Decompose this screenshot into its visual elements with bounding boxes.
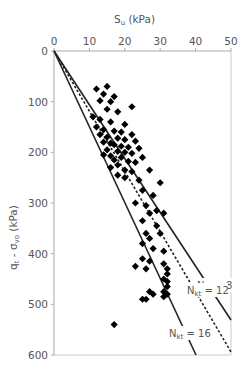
y-tick-label: 300 [28, 197, 48, 209]
x-tick-label: 40 [189, 35, 202, 47]
tick-marks [51, 48, 231, 355]
data-point-diamond [153, 222, 160, 229]
data-point-diamond [121, 121, 128, 128]
data-point-diamond [107, 118, 114, 125]
nkt-12-line [54, 51, 231, 352]
data-point-diamond [96, 97, 103, 104]
reference-lines [54, 51, 231, 355]
data-point-diamond [160, 248, 167, 255]
data-point-diamond [132, 138, 139, 145]
plot-area [51, 48, 231, 355]
data-points [89, 83, 171, 328]
x-tick-label: 50 [224, 35, 237, 47]
data-point-diamond [150, 245, 157, 252]
data-point-diamond [128, 131, 135, 138]
scatter-chart: Su (kPa) 01020304050 0100200300400500600… [0, 0, 246, 379]
y-tick-label: 600 [28, 349, 48, 361]
data-point-diamond [93, 123, 100, 130]
data-point-diamond [160, 210, 167, 217]
data-point-diamond [157, 230, 164, 237]
data-point-diamond [111, 321, 118, 328]
x-tick-label: 20 [118, 35, 131, 47]
x-tick-label: 10 [83, 35, 96, 47]
y-axis-title: qt - σvo (kPa) [7, 205, 21, 270]
data-point-diamond [139, 154, 146, 161]
data-point-diamond [93, 85, 100, 92]
data-point-diamond [139, 187, 146, 194]
y-tick-label: 0 [41, 45, 48, 57]
data-point-diamond [114, 108, 121, 115]
nkt-16-line [54, 51, 196, 355]
y-tick-label: 400 [28, 248, 48, 260]
data-point-diamond [114, 135, 121, 142]
data-point-diamond [104, 106, 111, 113]
data-point-diamond [128, 150, 135, 157]
data-point-diamond [111, 127, 118, 134]
data-point-diamond [146, 166, 153, 173]
x-axis-title: Su (kPa) [114, 13, 155, 27]
data-point-diamond [142, 265, 149, 272]
x-tick-label: 30 [154, 35, 167, 47]
data-point-diamond [139, 255, 146, 262]
data-point-diamond [100, 90, 107, 97]
data-point-diamond [132, 199, 139, 206]
data-point-diamond [114, 172, 121, 179]
annotations: Nkt = 8 [168, 278, 240, 341]
data-point-diamond [132, 263, 139, 270]
y-tick-label: 500 [28, 298, 48, 310]
data-point-diamond [153, 207, 160, 214]
data-point-diamond [118, 128, 125, 135]
y-tick-labels: 0100200300400500600 [28, 45, 48, 361]
data-point-diamond [128, 103, 135, 110]
x-tick-labels: 01020304050 [51, 35, 238, 47]
data-point-diamond [104, 83, 111, 90]
data-point-diamond [139, 217, 146, 224]
data-point-diamond [146, 258, 153, 265]
y-tick-label: 100 [28, 96, 48, 108]
data-point-diamond [157, 179, 164, 186]
data-point-diamond [132, 159, 139, 166]
y-tick-label: 200 [28, 146, 48, 158]
data-point-diamond [135, 145, 142, 152]
x-tick-label: 0 [51, 35, 58, 47]
data-point-diamond [121, 136, 128, 143]
